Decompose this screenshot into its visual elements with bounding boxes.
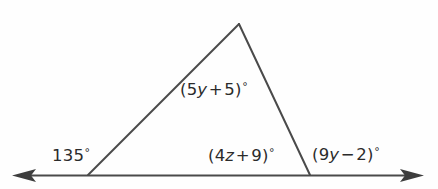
bottom-variable: z [225,146,234,165]
top-close-paren: ) [235,80,242,99]
top-operator: + [207,80,224,99]
bottom-coefficient: 4 [215,146,226,165]
top-degree-symbol: ° [242,80,248,93]
top-coefficient: 5 [187,80,198,99]
right-degree-symbol: ° [374,145,380,158]
bottom-constant: 9 [251,146,262,165]
angle-label-top: (5y+5)° [180,81,248,99]
left-degree-symbol: ° [84,146,90,159]
bottom-close-paren: ) [262,146,269,165]
angle-label-bottom: (4z+9)° [208,147,275,165]
top-constant: 5 [224,80,235,99]
right-variable: y [329,145,339,164]
top-variable: y [197,80,207,99]
bottom-open-paren: ( [208,146,215,165]
geometry-figure: (5y+5)° 135° (4z+9)° (9y−2)° [0,0,438,189]
right-open-paren: ( [312,145,319,164]
bottom-degree-symbol: ° [269,146,275,159]
right-close-paren: ) [367,145,374,164]
right-operator: − [339,145,356,164]
left-value: 135 [52,146,84,165]
angle-label-right: (9y−2)° [312,146,380,164]
bottom-operator: + [234,146,251,165]
right-coefficient: 9 [319,145,330,164]
top-open-paren: ( [180,80,187,99]
right-constant: 2 [356,145,367,164]
angle-label-left: 135° [52,147,90,165]
